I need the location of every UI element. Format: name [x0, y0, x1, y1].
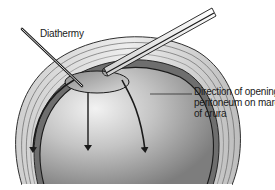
diagram-canvas: Diathermy Direction of opening peritoneu…	[0, 0, 275, 190]
label-direction-of-opening: Direction of opening peritoneum on margi…	[194, 86, 275, 119]
label-direction-line-1: Direction of opening	[194, 86, 275, 97]
label-diathermy: Diathermy	[40, 28, 84, 39]
label-direction-line-2: peritoneum on margin	[194, 97, 275, 108]
label-direction-line-3: of crura	[194, 108, 275, 119]
oval-opening	[65, 71, 129, 93]
